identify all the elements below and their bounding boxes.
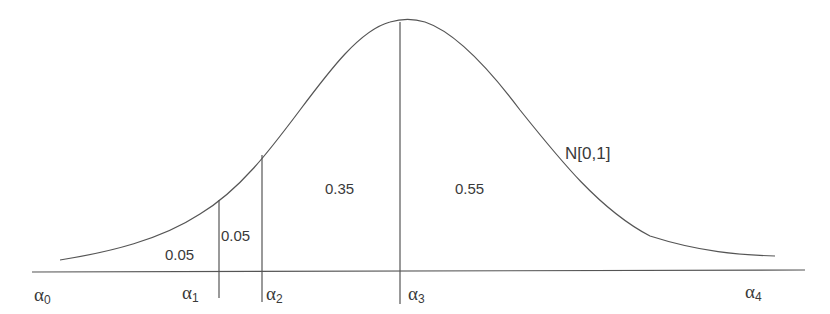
area-label-second: 0.05	[221, 227, 250, 244]
x-axis	[32, 270, 805, 272]
cut-label-alpha0: α0	[34, 284, 51, 307]
cut-label-alpha4: α4	[745, 281, 762, 304]
cut-label-alpha1: α1	[182, 282, 199, 305]
cut-label-alpha2: α2	[266, 283, 283, 306]
area-label-upper: 0.55	[455, 180, 484, 197]
bell-curve	[60, 19, 775, 260]
distribution-label: N[0,1]	[565, 144, 610, 164]
cut-label-alpha3: α3	[408, 283, 425, 306]
area-label-third: 0.35	[325, 180, 354, 197]
normal-distribution-diagram: 0.05 0.05 0.35 0.55 N[0,1] α0 α1 α2 α3 α…	[0, 0, 830, 314]
area-label-tail: 0.05	[165, 246, 194, 263]
diagram-canvas	[0, 0, 830, 314]
